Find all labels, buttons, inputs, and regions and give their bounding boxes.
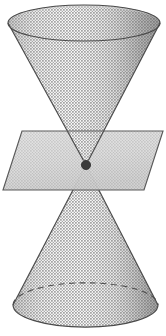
vertex-dot (81, 160, 90, 169)
double-cone-diagram: Double cone intersected by a horizontal … (0, 0, 166, 336)
vertex-point (81, 160, 90, 169)
figure-container: Double cone intersected by a horizontal … (0, 0, 166, 336)
